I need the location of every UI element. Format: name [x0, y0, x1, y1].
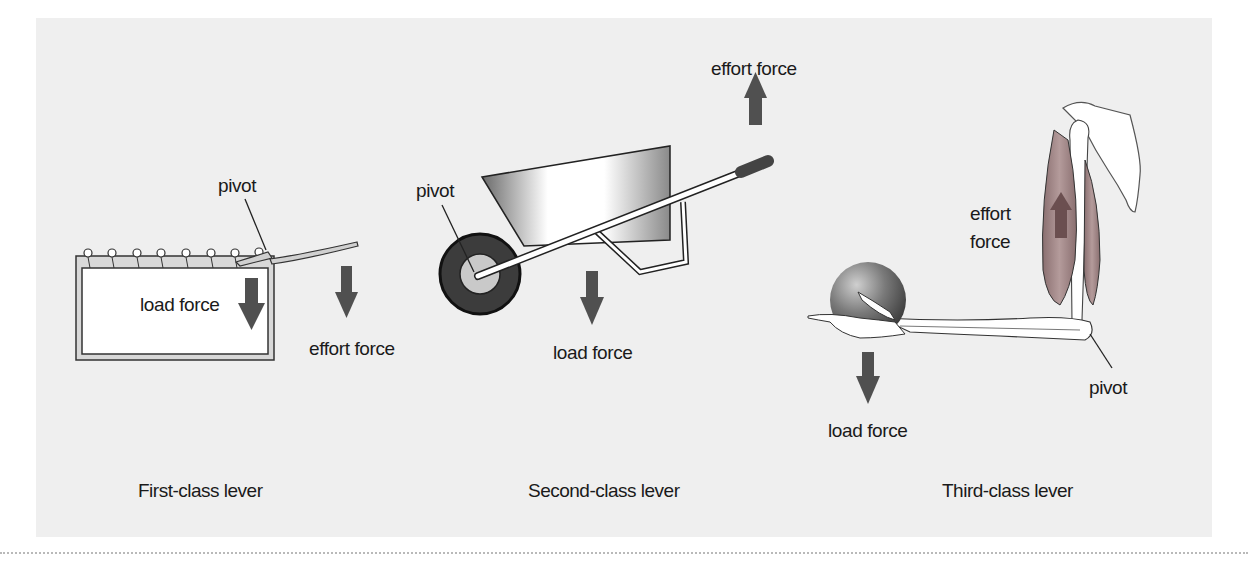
third-class-effort-label-line1: effort	[970, 203, 1011, 225]
first-class-load-force-label: load force	[140, 294, 219, 316]
second-class-lever-caption: Second-class lever	[528, 480, 680, 502]
third-class-effort-label-line2: force	[970, 231, 1010, 253]
third-class-pivot-label: pivot	[1089, 377, 1127, 399]
first-class-lever-figure	[76, 199, 358, 360]
second-class-pivot-label: pivot	[416, 180, 454, 202]
third-class-lever-caption: Third-class lever	[942, 480, 1073, 502]
second-class-lever-figure	[440, 72, 768, 325]
second-class-effort-force-label: effort force	[711, 58, 797, 80]
third-class-load-force-label: load force	[828, 420, 907, 442]
first-class-pivot-label: pivot	[218, 175, 256, 197]
first-class-effort-force-label: effort force	[309, 338, 395, 360]
second-class-load-force-label: load force	[553, 342, 632, 364]
third-class-lever-figure	[808, 102, 1140, 404]
first-class-lever-caption: First-class lever	[138, 480, 263, 502]
levers-illustration	[0, 0, 1248, 562]
